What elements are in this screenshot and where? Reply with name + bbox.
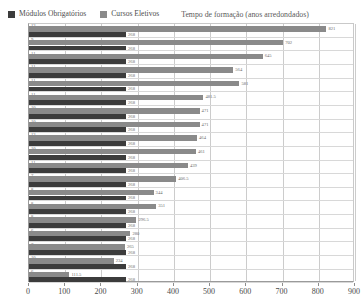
bar-cursos-eletivos <box>29 26 326 31</box>
x-tick-label: 200 <box>94 287 106 296</box>
bar-row: 11439268 <box>29 160 353 174</box>
x-tick <box>173 283 174 286</box>
bar-cursos-eletivos <box>29 204 156 209</box>
bar-value-label: 564 <box>235 67 242 72</box>
x-tick-label: 700 <box>276 287 288 296</box>
x-tick <box>28 283 29 286</box>
chart-legend: Módulos Obrigatórios Cursos Eletivos Tem… <box>0 6 364 22</box>
x-tick <box>100 283 101 286</box>
bar-row: 10471268 <box>29 106 353 120</box>
bar-row: 8296.5268 <box>29 215 353 229</box>
bar-row: 9702268 <box>29 38 353 52</box>
x-tick <box>137 283 138 286</box>
chart-annotation: Tempo de formação (anos arredondados) <box>181 10 309 19</box>
x-tick-label: 800 <box>312 287 324 296</box>
bar-row: 8344268 <box>29 188 353 202</box>
bar-value-label: 645 <box>265 53 272 58</box>
bar-row: 7265268 <box>29 242 353 256</box>
bar-value-label: 471 <box>202 108 209 113</box>
x-tick <box>245 283 246 286</box>
x-tick-label: 400 <box>167 287 179 296</box>
bar-cursos-eletivos <box>29 40 283 45</box>
bar-value-label: 471 <box>202 122 209 127</box>
bar-value-label: 296.5 <box>138 217 148 222</box>
bar-cursos-eletivos <box>29 176 176 181</box>
bar-value-label: 581 <box>241 81 248 86</box>
bar-row: 10461268 <box>29 147 353 161</box>
bar-value-label: 351 <box>158 203 165 208</box>
bar-cursos-eletivos <box>29 149 196 154</box>
legend-swatch-modulos-icon <box>8 11 15 18</box>
bar-row: 11564268 <box>29 65 353 79</box>
bar-row: 10471268 <box>29 119 353 133</box>
legend-item-cursos-eletivos: Cursos Eletivos <box>100 10 159 18</box>
bar-rows: 1282126897022681164526811564268115812681… <box>29 24 353 281</box>
legend-swatch-eletivos-icon <box>100 11 107 18</box>
bar-value-label: 344 <box>156 190 163 195</box>
plot-area: 1282126897022681164526811564268115812681… <box>28 23 354 282</box>
gridline <box>355 24 356 281</box>
bar-row: 6280268 <box>29 228 353 242</box>
bar-row: 12821268 <box>29 24 353 38</box>
bar-cursos-eletivos <box>29 95 203 100</box>
bar-value-label: 481.5 <box>205 94 215 99</box>
bar-value-label: 265 <box>127 244 134 249</box>
bar-value-label: 702 <box>285 40 292 45</box>
x-tick <box>209 283 210 286</box>
x-tick <box>64 283 65 286</box>
bar-row: 7406.5268 <box>29 174 353 188</box>
x-axis: 0100200300400500600700800900 <box>28 283 354 305</box>
bar-cursos-eletivos <box>29 231 130 236</box>
legend-item-modulos-obrigatorios: Módulos Obrigatórios <box>8 10 86 18</box>
bar-cursos-eletivos <box>29 217 136 222</box>
x-tick-label: 300 <box>131 287 143 296</box>
x-tick-label: 100 <box>58 287 70 296</box>
bar-row: 8351268 <box>29 201 353 215</box>
bar-cursos-eletivos <box>29 108 200 113</box>
bar-cursos-eletivos <box>29 244 125 249</box>
legend-label-eletivos: Cursos Eletivos <box>111 10 159 18</box>
x-tick-label: 500 <box>203 287 215 296</box>
bar-row: 11645268 <box>29 51 353 65</box>
x-tick-label: 600 <box>239 287 251 296</box>
bar-chart: Módulos Obrigatórios Cursos Eletivos Tem… <box>0 0 364 308</box>
bar-value-label: 461 <box>198 149 205 154</box>
bar-cursos-eletivos <box>29 272 69 277</box>
bar-cursos-eletivos <box>29 135 197 140</box>
legend-label-modulos: Módulos Obrigatórios <box>19 10 86 18</box>
bar-value-label: 439 <box>190 163 197 168</box>
x-tick <box>318 283 319 286</box>
bar-row: 11481.5268 <box>29 92 353 106</box>
bar-row: 6111.5268 <box>29 269 353 283</box>
bar-value-label: 464 <box>199 135 206 140</box>
x-tick-label: 0 <box>26 287 30 296</box>
bar-value-label: 280 <box>132 231 139 236</box>
bar-row: 12464268 <box>29 133 353 147</box>
bar-cursos-eletivos <box>29 54 263 59</box>
bar-cursos-eletivos <box>29 163 188 168</box>
bar-cursos-eletivos <box>29 258 114 263</box>
x-tick <box>282 283 283 286</box>
bar-value-label: 406.5 <box>178 176 188 181</box>
bar-row: 11581268 <box>29 79 353 93</box>
x-tick-label: 900 <box>348 287 360 296</box>
bar-value-label: 111.5 <box>71 272 81 277</box>
x-tick <box>354 283 355 286</box>
bar-cursos-eletivos <box>29 122 200 127</box>
bar-value-label: 234 <box>116 258 123 263</box>
bar-value-label: 821 <box>328 26 335 31</box>
bar-row: 10234268 <box>29 256 353 270</box>
